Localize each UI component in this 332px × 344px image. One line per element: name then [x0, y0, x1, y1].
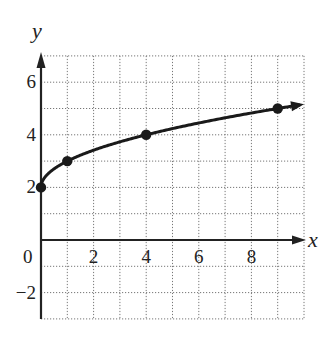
y-tick-label: −2	[16, 282, 36, 303]
data-point	[62, 156, 72, 166]
x-tick-label: 8	[247, 246, 257, 267]
y-tick-label: 6	[27, 71, 37, 92]
y-axis-label: y	[30, 18, 42, 43]
x-tick-label: 2	[89, 246, 99, 267]
y-tick-label: 4	[27, 124, 37, 145]
curve-arrow-icon	[290, 101, 304, 111]
data-point	[36, 182, 46, 192]
graph-sqrt-function: 02468642−2 x y	[0, 0, 332, 344]
grid-lines	[41, 56, 304, 319]
x-tick-label: 4	[141, 246, 151, 267]
axes	[37, 52, 307, 319]
data-point	[273, 103, 283, 113]
tick-labels: 02468642−2	[16, 71, 256, 302]
x-tick-label: 6	[194, 246, 204, 267]
curve-path	[41, 105, 300, 188]
data-point	[141, 130, 151, 140]
function-curve	[36, 101, 304, 192]
y-tick-label: 2	[27, 176, 37, 197]
x-axis-label: x	[307, 227, 318, 252]
y-axis-arrow-icon	[37, 52, 46, 68]
x-tick-label: 0	[23, 246, 33, 267]
